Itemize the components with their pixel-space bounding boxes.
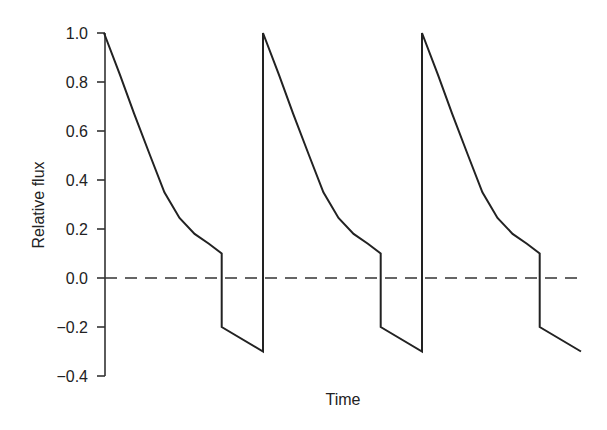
y-tick-label: 0.8	[66, 74, 88, 91]
y-tick-label: 0.4	[66, 172, 88, 189]
y-axis-title: Relative flux	[30, 161, 47, 248]
y-tick-label: −0.2	[56, 319, 88, 336]
y-tick-label: 1.0	[66, 25, 88, 42]
y-tick-labels: 1.00.80.60.40.20.0−0.2−0.4	[56, 25, 88, 385]
y-axis	[97, 33, 105, 376]
y-tick-label: 0.0	[66, 270, 88, 287]
flux-chart: 1.00.80.60.40.20.0−0.2−0.4 Time Relative…	[0, 0, 607, 430]
y-tick-label: −0.4	[56, 368, 88, 385]
y-tick-label: 0.2	[66, 221, 88, 238]
x-axis-title: Time	[326, 391, 361, 408]
flux-series-line	[104, 33, 581, 352]
y-tick-label: 0.6	[66, 123, 88, 140]
